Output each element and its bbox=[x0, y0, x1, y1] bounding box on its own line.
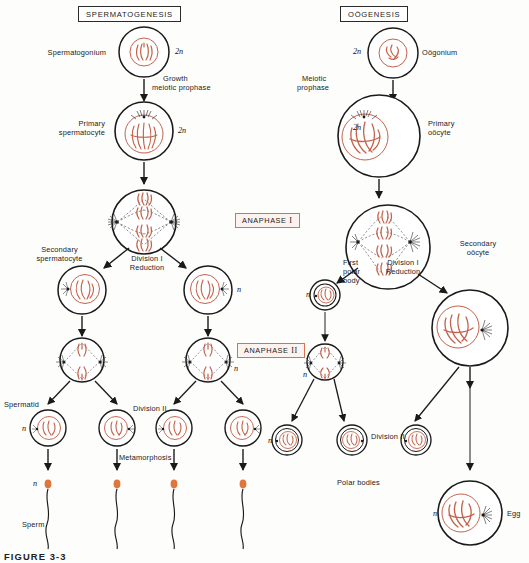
label-first-polar-body-line1: First bbox=[343, 258, 358, 267]
label-secondary-oocyte-line2: oöcyte bbox=[442, 248, 514, 257]
cell-spermatid-1 bbox=[30, 410, 66, 446]
anaphase-ii-roman: II bbox=[291, 346, 298, 355]
cell-anaphase-ii-female bbox=[304, 344, 346, 380]
label-oogonium: Oögonium bbox=[422, 48, 457, 57]
cell-primary-oocyte bbox=[338, 95, 420, 177]
label-division-i-female-line2: Reduction bbox=[372, 267, 434, 276]
label-spermatid: Spermatid bbox=[4, 400, 39, 409]
label-secondary-spermatocyte-line1: Secondary bbox=[12, 245, 107, 254]
cell-polar-body-3 bbox=[401, 425, 431, 455]
meiosis-comparison-diagram: SPERMATOGENESIS OÖGENESIS ANAPHASE I ANA… bbox=[0, 0, 529, 563]
ploidy-spermatogonium: 2n bbox=[175, 47, 183, 56]
anaphase-i-text: ANAPHASE bbox=[242, 216, 287, 225]
stage-label-anaphase-i: ANAPHASE I bbox=[235, 213, 300, 228]
ploidy-secondary-spermatocyte: n bbox=[237, 285, 241, 294]
label-division-ii-female: Division II bbox=[371, 432, 405, 441]
label-polar-bodies: Polar bodies bbox=[337, 478, 380, 487]
label-metamorphosis: Metamorphosis bbox=[119, 453, 171, 462]
label-first-polar-body-line2: polar bbox=[343, 267, 360, 276]
cell-secondary-spermatocyte-right bbox=[184, 266, 232, 314]
ploidy-sperm: n bbox=[33, 479, 37, 488]
anaphase-ii-text: ANAPHASE bbox=[244, 346, 289, 355]
cell-spermatogonium bbox=[119, 27, 169, 77]
ploidy-primary-spermatocyte: 2n bbox=[178, 126, 186, 135]
label-meiotic-line1: Meiotic bbox=[302, 74, 326, 83]
ploidy-spermatid: n bbox=[22, 424, 26, 433]
cell-spermatid-2 bbox=[99, 410, 135, 446]
header-spermatogenesis: SPERMATOGENESIS bbox=[78, 6, 181, 22]
label-secondary-oocyte-line1: Secondary bbox=[442, 239, 514, 248]
cell-anaphase-ii-male-right bbox=[182, 338, 234, 382]
label-division-ii-male: Division II bbox=[133, 404, 167, 413]
sperm-3 bbox=[171, 480, 178, 549]
cell-spermatid-4 bbox=[225, 410, 261, 446]
diagram-graphics bbox=[0, 0, 529, 563]
label-division-i-male-line2: Reduction bbox=[117, 263, 177, 272]
sperm-4 bbox=[240, 480, 247, 549]
label-division-i-male-line1: Division I bbox=[117, 254, 177, 263]
cell-anaphase-i-male bbox=[108, 190, 180, 254]
ploidy-polar-body: n bbox=[268, 436, 272, 445]
label-primary-oocyte-line2: oöcyte bbox=[428, 128, 451, 137]
cell-polar-body-2 bbox=[337, 425, 367, 455]
header-oogenesis: OÖGENESIS bbox=[340, 6, 408, 22]
stage-label-anaphase-ii: ANAPHASE II bbox=[237, 343, 305, 358]
ploidy-anaphase-ii-male: n bbox=[234, 364, 238, 373]
label-meiotic-line2: prophase bbox=[297, 83, 329, 92]
ploidy-primary-oocyte: 2n bbox=[353, 123, 361, 132]
label-primary-spermatocyte-line2: spermatocyte bbox=[20, 128, 105, 137]
cell-secondary-oocyte bbox=[432, 290, 508, 366]
cell-spermatid-3 bbox=[156, 410, 192, 446]
anaphase-i-roman: I bbox=[289, 216, 292, 225]
cell-polar-body-1 bbox=[272, 425, 302, 455]
label-primary-oocyte-line1: Primary bbox=[428, 119, 455, 128]
cell-secondary-spermatocyte-left bbox=[58, 266, 106, 314]
label-primary-spermatocyte-line1: Primary bbox=[20, 119, 105, 128]
label-growth-line1: Growth bbox=[163, 74, 188, 83]
sperm-2 bbox=[114, 480, 121, 549]
cell-anaphase-ii-male-left bbox=[56, 338, 108, 382]
label-secondary-spermatocyte-line2: spermatocyte bbox=[12, 254, 107, 263]
cell-primary-spermatocyte bbox=[115, 102, 173, 160]
sperm-1 bbox=[45, 480, 52, 549]
ploidy-egg: n bbox=[433, 509, 437, 518]
label-first-polar-body-line3: body bbox=[343, 276, 360, 285]
ploidy-anaphase-ii-female: n bbox=[303, 370, 307, 379]
cell-first-polar-body bbox=[310, 280, 340, 310]
label-division-i-female-line1: Division I bbox=[372, 258, 434, 267]
ploidy-oogonium: 2n bbox=[353, 47, 361, 56]
cell-oogonium bbox=[368, 28, 418, 78]
cell-egg bbox=[438, 481, 502, 545]
figure-caption: FIGURE 3-3 bbox=[4, 551, 67, 563]
label-spermatogonium: Spermatogonium bbox=[6, 48, 106, 57]
label-egg: Egg bbox=[507, 509, 521, 518]
ploidy-first-polar-body: n bbox=[306, 290, 310, 299]
label-sperm: Sperm bbox=[22, 520, 45, 529]
label-growth-line2: meiotic prophase bbox=[152, 83, 211, 92]
